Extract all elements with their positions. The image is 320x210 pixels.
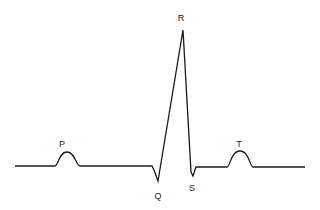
label-s-point: S [189,184,195,193]
ecg-waveform-figure: P Q R S T [0,0,320,210]
label-p-wave: P [59,140,65,149]
label-t-wave: T [236,140,242,149]
ecg-trace-path [15,30,305,181]
label-r-peak: R [178,14,185,23]
label-q-point: Q [154,192,161,201]
ecg-trace-canvas [0,0,320,210]
